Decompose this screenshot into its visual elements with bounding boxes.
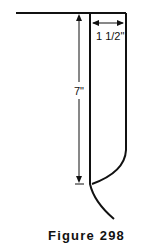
width-label: 1 1/2": [96, 30, 124, 42]
width-arrow-right-icon: [117, 20, 124, 26]
left-edge-curve: [90, 13, 114, 219]
figure-caption: Figure 298: [48, 228, 125, 243]
diagram: 7" 1 1/2" Figure 298: [0, 0, 149, 244]
height-label: 7": [74, 85, 84, 97]
height-arrow-down-icon: [76, 176, 82, 183]
width-arrow-left-icon: [92, 20, 99, 26]
height-arrow-up-icon: [76, 14, 82, 21]
